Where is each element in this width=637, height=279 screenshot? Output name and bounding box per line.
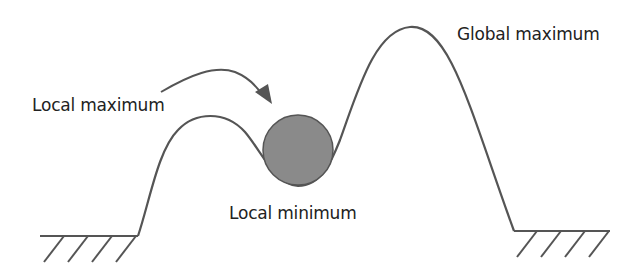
arrow-curve xyxy=(161,70,263,96)
ground-right-icon xyxy=(514,231,610,257)
global-maximum-label: Global maximum xyxy=(457,24,600,44)
ball-icon xyxy=(263,115,333,185)
local-maximum-label: Local maximum xyxy=(32,95,165,115)
local-minimum-label: Local minimum xyxy=(229,203,357,223)
ground-left-icon xyxy=(40,236,138,262)
energy-landscape-diagram: Local maximum Global maximum Local minim… xyxy=(0,0,637,279)
